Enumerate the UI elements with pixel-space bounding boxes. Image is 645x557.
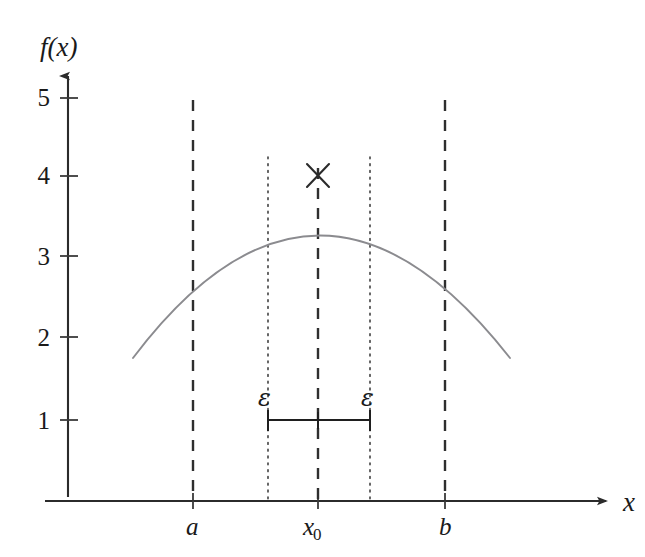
y-tick-label-1: 1 xyxy=(20,408,50,433)
epsilon-label-right: ε xyxy=(361,386,374,410)
x-tick-label-x0: x0 xyxy=(303,514,322,543)
epsilon-measure-bar xyxy=(268,410,370,431)
y-axis-label: f(x) xyxy=(40,34,77,61)
x-tick-label-a: a xyxy=(186,514,199,539)
figure-canvas: f(x) x 5 4 3 2 1 a x0 b ε ε xyxy=(0,0,645,557)
y-tick-label-5: 5 xyxy=(20,85,50,110)
y-tick-label-4: 4 xyxy=(20,163,50,188)
x-tick-label-b: b xyxy=(439,514,452,539)
y-tick-label-2: 2 xyxy=(20,325,50,350)
epsilon-label-left: ε xyxy=(258,386,271,410)
y-tick-label-3: 3 xyxy=(20,244,50,269)
plot-svg xyxy=(0,0,645,557)
x-axis-label: x xyxy=(623,489,635,516)
maximum-marker-icon xyxy=(307,164,329,187)
function-curve xyxy=(133,236,510,359)
x-tick-label-x0-subscript: 0 xyxy=(313,525,322,544)
